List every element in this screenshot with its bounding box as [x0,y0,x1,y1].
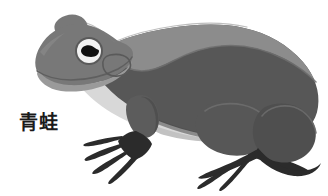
caption-label: 青蛙 [19,111,59,133]
frog-illustration-card: 青蛙 [0,0,328,196]
hind-limb-group [196,101,321,191]
frog-illustration [0,0,328,196]
